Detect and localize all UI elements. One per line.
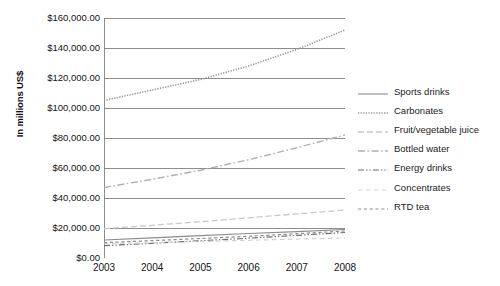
legend-label: Energy drinks — [394, 162, 452, 174]
legend-swatch-icon — [358, 162, 388, 174]
chart-legend: Sports drinksCarbonatesFruit/vegetable j… — [358, 82, 500, 216]
plot-area — [104, 18, 345, 258]
legend-item[interactable]: Fruit/vegetable juice — [358, 120, 500, 139]
legend-swatch-icon — [358, 124, 388, 136]
legend-label: Sports drinks — [394, 86, 449, 98]
y-axis-tick-label: $120,000.00 — [20, 73, 100, 83]
x-axis-tick-label: 2008 — [322, 262, 368, 274]
legend-label: Concentrates — [394, 182, 451, 194]
legend-label: Fruit/vegetable juice — [394, 124, 479, 136]
chart-plot-svg — [104, 18, 345, 258]
y-axis-tick-label: $140,000.00 — [20, 43, 100, 53]
x-axis-tick-label: 2005 — [177, 262, 223, 274]
x-axis-tick-label: 2006 — [226, 262, 272, 274]
gridlines — [104, 19, 345, 259]
legend-swatch-icon — [358, 143, 388, 155]
legend-item[interactable]: Sports drinks — [358, 82, 500, 101]
legend-item[interactable]: RTD tea — [358, 197, 500, 216]
y-axis-tick-label: $20,000.00 — [20, 223, 100, 233]
x-axis-tick-label: 2007 — [274, 262, 320, 274]
x-axis-tick-label: 2004 — [129, 262, 175, 274]
legend-item[interactable]: Energy drinks — [358, 159, 500, 178]
chart-figure: In millions US$ $0.00$20,000.00$40,000.0… — [0, 0, 500, 286]
legend-label: Carbonates — [394, 105, 443, 117]
y-axis-tick-label: $60,000.00 — [20, 163, 100, 173]
legend-swatch-icon — [358, 86, 388, 98]
legend-swatch-icon — [358, 182, 388, 194]
legend-label: Bottled water — [394, 143, 449, 155]
y-axis-tick-label: $160,000.00 — [20, 13, 100, 23]
y-axis-tick-labels: $0.00$20,000.00$40,000.00$60,000.00$80,0… — [20, 0, 100, 286]
y-axis-tick-label: $40,000.00 — [20, 193, 100, 203]
series-line — [104, 210, 345, 229]
legend-swatch-icon — [358, 105, 388, 117]
series-line — [104, 30, 345, 101]
legend-item[interactable]: Bottled water — [358, 140, 500, 159]
legend-label: RTD tea — [394, 201, 429, 213]
x-axis-tick-label: 2003 — [81, 262, 127, 274]
legend-swatch-icon — [358, 201, 388, 213]
series-line — [104, 135, 345, 188]
y-axis-tick-label: $80,000.00 — [20, 133, 100, 143]
x-axis-tick-labels: 200320042005200620072008 — [0, 262, 500, 278]
y-axis-tick-label: $100,000.00 — [20, 103, 100, 113]
legend-item[interactable]: Concentrates — [358, 178, 500, 197]
legend-item[interactable]: Carbonates — [358, 101, 500, 120]
